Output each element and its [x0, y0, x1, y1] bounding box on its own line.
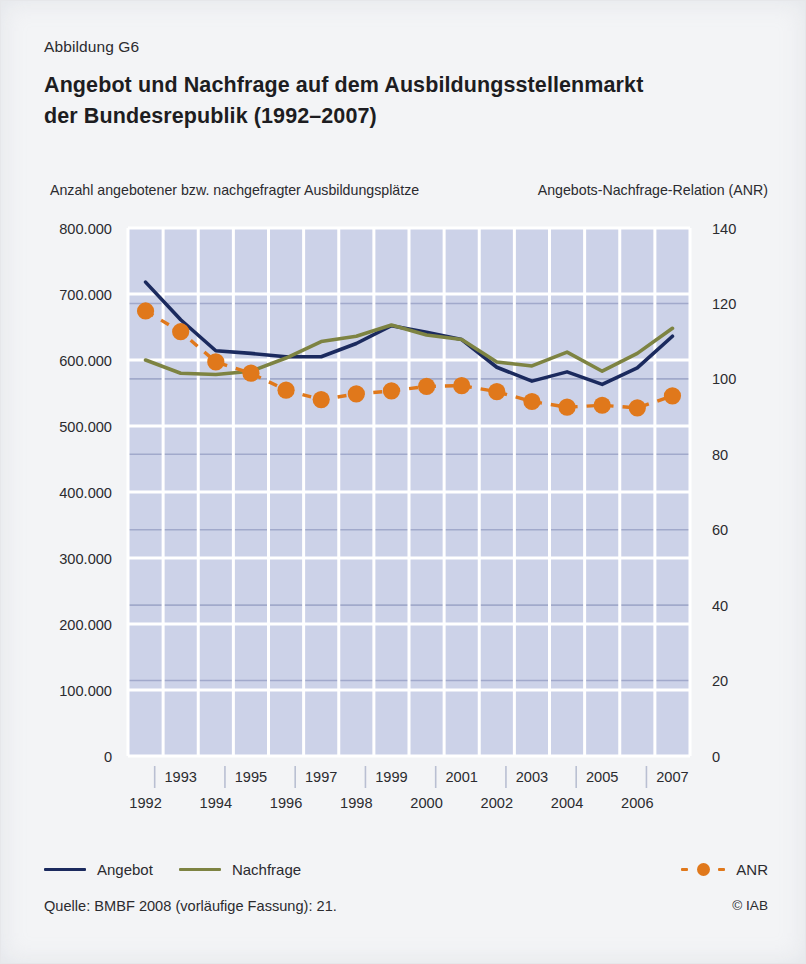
anr-marker — [453, 377, 470, 394]
figure-page: Abbildung G6 Angebot und Nachfrage auf d… — [0, 0, 806, 964]
figure-label: Abbildung G6 — [44, 38, 139, 56]
x-tick-labels: 1992199319941995199619971998199920002001… — [129, 766, 688, 811]
left-tick-label: 500.000 — [59, 419, 112, 435]
anr-marker — [664, 387, 681, 404]
angebot-line-swatch-icon — [44, 868, 86, 871]
x-tick-label: 2007 — [656, 769, 688, 785]
anr-marker — [629, 399, 646, 416]
x-tick-label: 1994 — [200, 795, 232, 811]
right-tick-label: 140 — [712, 221, 736, 237]
anr-marker — [383, 382, 400, 399]
right-tick-label: 100 — [712, 371, 736, 387]
anr-marker — [137, 302, 154, 319]
x-tick-label: 1996 — [270, 795, 302, 811]
anr-marker — [277, 382, 294, 399]
figure-title-line1: Angebot und Nachfrage auf dem Ausbildung… — [44, 73, 643, 97]
x-tick-label: 1998 — [340, 795, 372, 811]
legend-left-group: Angebot Nachfrage — [44, 856, 301, 882]
x-tick-label: 2001 — [445, 769, 477, 785]
anr-marker — [172, 323, 189, 340]
legend-label-nachfrage: Nachfrage — [232, 861, 301, 878]
right-tick-label: 0 — [712, 749, 720, 765]
x-tick-label: 1999 — [375, 769, 407, 785]
copyright-text: © IAB — [732, 898, 768, 913]
left-tick-label: 700.000 — [59, 287, 112, 303]
left-tick-label: 400.000 — [59, 485, 112, 501]
left-tick-label: 100.000 — [59, 683, 112, 699]
x-tick-label: 2004 — [551, 795, 583, 811]
x-tick-label: 1997 — [305, 769, 337, 785]
anr-marker — [488, 383, 505, 400]
legend-item-anr: ANR — [681, 861, 768, 878]
anr-marker — [207, 353, 224, 370]
x-tick-label: 2005 — [586, 769, 618, 785]
line-chart: 0100.000200.000300.000400.000500.000600.… — [0, 196, 806, 836]
left-tick-label: 200.000 — [59, 617, 112, 633]
right-tick-label: 120 — [712, 296, 736, 312]
anr-marker — [523, 393, 540, 410]
legend-right-group: ANR — [681, 856, 768, 882]
legend-label-anr: ANR — [736, 861, 768, 878]
x-tick-label: 1993 — [164, 769, 196, 785]
source-line: Quelle: BMBF 2008 (vorläufige Fassung): … — [44, 898, 768, 920]
figure-title: Angebot und Nachfrage auf dem Ausbildung… — [44, 70, 744, 131]
x-tick-label: 1995 — [235, 769, 267, 785]
x-tick-label: 2003 — [516, 769, 548, 785]
right-tick-labels: 020406080100120140 — [712, 221, 736, 765]
left-tick-label: 0 — [104, 749, 112, 765]
anr-marker-swatch-icon — [681, 862, 725, 876]
x-tick-label: 2000 — [410, 795, 442, 811]
figure-title-line2: der Bundesrepublik (1992–2007) — [44, 101, 744, 132]
anr-marker — [558, 399, 575, 416]
anr-marker — [594, 397, 611, 414]
anr-marker — [313, 391, 330, 408]
legend-item-angebot: Angebot — [44, 861, 153, 878]
left-tick-label: 800.000 — [59, 221, 112, 237]
legend-item-nachfrage: Nachfrage — [179, 861, 301, 878]
left-tick-label: 600.000 — [59, 353, 112, 369]
left-tick-label: 300.000 — [59, 551, 112, 567]
anr-marker — [348, 385, 365, 402]
chart-area: 0100.000200.000300.000400.000500.000600.… — [0, 196, 806, 836]
legend-label-angebot: Angebot — [97, 861, 153, 878]
right-tick-label: 80 — [712, 447, 728, 463]
x-tick-label: 1992 — [129, 795, 161, 811]
anr-marker — [242, 365, 259, 382]
left-tick-labels: 0100.000200.000300.000400.000500.000600.… — [59, 221, 112, 765]
nachfrage-line-swatch-icon — [179, 868, 221, 871]
source-text: Quelle: BMBF 2008 (vorläufige Fassung): … — [44, 898, 337, 914]
anr-marker — [418, 378, 435, 395]
chart-legend: Angebot Nachfrage ANR — [44, 856, 768, 882]
x-tick-label: 2002 — [481, 795, 513, 811]
right-tick-label: 20 — [712, 673, 728, 689]
right-tick-label: 60 — [712, 522, 728, 538]
right-tick-label: 40 — [712, 598, 728, 614]
x-tick-label: 2006 — [621, 795, 653, 811]
